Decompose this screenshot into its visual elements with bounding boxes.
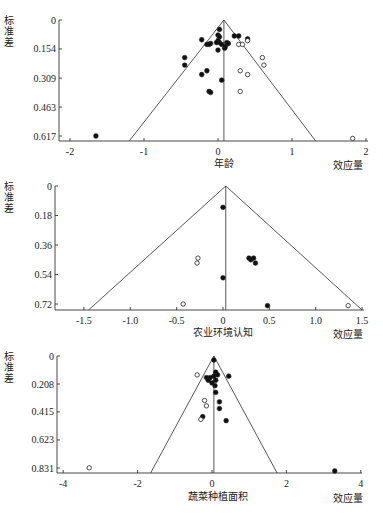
imputed-study-point [195,261,199,265]
funnel-plot-2: 00.180.360.540.72-1.5-1.0-0.500.51.01.5标… [4,181,368,341]
y-tick-label: 0.154 [34,43,57,54]
study-point [332,469,337,474]
study-point [222,46,227,51]
y-axis-label: 准 [4,192,14,203]
effect-size-label: 效应量 [333,159,363,171]
y-tick-label: 0.617 [34,131,57,142]
study-point [207,42,212,47]
y-tick-label: 0.208 [32,379,55,390]
study-point [236,34,241,39]
y-axis-label: 差 [4,202,14,214]
study-point [199,37,204,42]
imputed-study-point [350,136,354,140]
study-point [213,378,218,383]
y-tick-label: 0.309 [34,73,57,84]
study-point [211,358,216,363]
imputed-study-point [202,398,206,402]
x-axis-label: 年龄 [214,157,234,169]
y-tick-label: 0 [47,181,52,192]
x-tick-label: 2 [284,478,289,489]
y-tick-label: 0.72 [35,299,53,310]
study-point [217,27,222,32]
imputed-study-point [204,404,208,408]
y-axis-label: 标 [4,15,14,26]
x-tick-label: 0 [221,315,226,326]
y-tick-label: 0.18 [35,210,53,221]
study-point [221,275,226,280]
imputed-study-point [245,38,249,42]
x-tick-label: 0.5 [263,315,276,326]
study-point [182,63,187,68]
x-tick-label: -1.0 [122,315,138,326]
study-point [217,399,222,404]
x-tick-label: -1 [140,146,148,157]
y-tick-label: 0 [49,351,54,362]
x-tick-label: -1.5 [76,315,92,326]
x-tick-label: 1.5 [356,315,369,326]
study-point [213,383,218,388]
study-point [219,78,224,83]
study-point [208,90,213,95]
y-axis-label: 准 [4,26,14,37]
imputed-study-point [196,256,200,260]
x-tick-label: 0 [216,146,221,157]
funnel-boundary [89,186,362,310]
y-tick-label: 0.463 [34,102,57,113]
effect-size-label: 效应量 [333,492,363,504]
study-point [199,72,204,77]
study-point [224,418,229,423]
x-tick-label: 4 [358,478,363,489]
imputed-study-point [260,55,264,59]
study-point [251,256,256,261]
y-tick-label: 0.415 [32,406,55,417]
study-point [226,374,231,379]
y-tick-label: 0.623 [32,434,55,445]
imputed-study-point [199,417,203,421]
funnel-plot-3: 00.2080.4150.6230.831-4-2024标准差蔬菜种植面积效应量 [4,351,363,505]
imputed-study-point [245,72,249,76]
study-point [213,390,218,395]
y-axis-label: 差 [4,36,14,48]
study-point [232,34,237,39]
y-axis-label: 准 [4,362,14,373]
y-tick-label: 0 [51,15,56,26]
study-point [265,303,270,308]
imputed-study-point [181,302,185,306]
study-point [216,48,221,53]
y-axis-label: 标 [4,351,14,362]
study-point [94,134,99,139]
y-axis-label: 标 [4,181,14,192]
x-axis-label: 蔬菜种植面积 [188,490,248,502]
x-tick-label: -0.5 [169,315,185,326]
x-axis-label: 农业环境认知 [193,326,253,338]
imputed-study-point [238,69,242,73]
y-tick-label: 0.831 [32,463,55,474]
x-tick-label: 1.0 [309,315,322,326]
effect-size-label: 效应量 [333,328,363,340]
funnel-plot-1: 00.1540.3090.4630.617-2-1012标准差年龄效应量 [4,15,369,172]
study-point [214,40,219,45]
funnel-plots: 00.1540.3090.4630.617-2-1012标准差年龄效应量00.1… [0,0,383,520]
x-tick-label: 1 [290,146,295,157]
x-tick-label: 0 [210,478,215,489]
imputed-study-point [262,63,266,67]
x-tick-label: -2 [66,146,74,157]
y-tick-label: 0.36 [35,240,53,251]
x-tick-label: -2 [133,478,141,489]
x-tick-label: -4 [59,478,67,489]
study-point [217,406,222,411]
imputed-study-point [87,466,91,470]
imputed-study-point [346,303,350,307]
study-point [253,261,258,266]
y-tick-label: 0.54 [35,269,53,280]
imputed-study-point [240,42,244,46]
x-tick-label: 2 [364,146,369,157]
imputed-study-point [238,89,242,93]
y-axis-label: 差 [4,372,14,384]
imputed-study-point [195,373,199,377]
study-point [205,68,210,73]
study-point [182,55,187,60]
study-point [221,205,226,210]
